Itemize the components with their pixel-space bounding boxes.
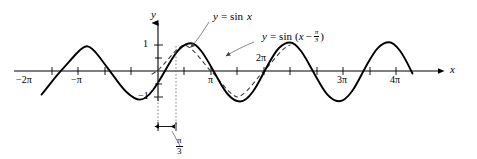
phase-shift-denominator: 3 xyxy=(176,147,183,157)
eq2-argument: x xyxy=(299,30,304,42)
eq2-equals: = xyxy=(270,30,276,42)
eq1-lhs: y xyxy=(213,10,218,22)
eq2-close-paren: ) xyxy=(320,30,324,42)
x-tick-label-4pi: 4π xyxy=(390,75,400,85)
x-tick-label-negpi: −π xyxy=(71,75,82,85)
equation-label-sine-shifted: y=sin(x−π3) xyxy=(262,30,324,46)
eq1-function: sin xyxy=(230,10,243,22)
x-tick-label-pi: π xyxy=(208,75,213,85)
y-axis-label: y xyxy=(151,9,156,20)
x-tick-label-neg2pi: −2π xyxy=(16,75,32,85)
equation-label-sine-plain: y=sinx xyxy=(213,11,252,22)
x-axis-label: x xyxy=(450,64,455,75)
eq2-fraction-denominator: 3 xyxy=(314,37,320,44)
eq2-fraction-pi-over-3: π3 xyxy=(314,29,320,45)
phase-shift-fraction-label: π 3 xyxy=(176,136,183,157)
sine-phase-shift-figure: y x 1 −1 −2π −π π 2π 3π 4π y=sinx y=sin(… xyxy=(0,0,477,159)
eq2-lhs: y xyxy=(262,30,267,42)
x-tick-label-2pi: 2π xyxy=(256,53,266,63)
y-tick-label-neg1: −1 xyxy=(138,91,149,101)
eq2-minus: − xyxy=(306,30,312,42)
eq2-function: sin xyxy=(279,30,292,42)
callout-leader-sine-shifted xyxy=(226,42,254,56)
sine-curve-solid xyxy=(42,42,413,101)
x-tick-label-3pi: 3π xyxy=(337,75,347,85)
eq1-argument: x xyxy=(247,10,252,22)
eq1-equals: = xyxy=(221,10,227,22)
y-tick-label-1: 1 xyxy=(143,39,148,49)
